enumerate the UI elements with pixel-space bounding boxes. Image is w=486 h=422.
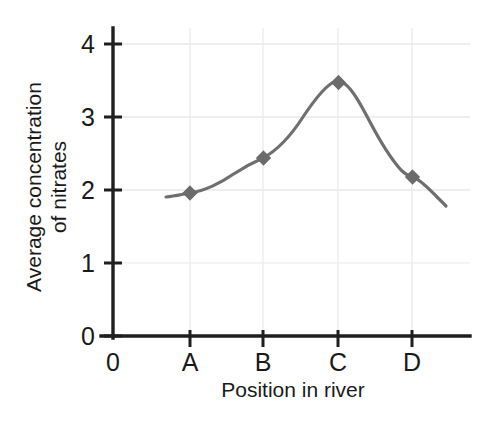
x-axis-tick-labels: 0 A B C D <box>106 348 421 376</box>
x-tick-label-a: A <box>182 348 199 376</box>
data-point-a <box>184 187 197 200</box>
chart-container: 4 3 2 1 0 0 A B C D Position in river Av… <box>0 0 486 422</box>
y-tick-label-4: 4 <box>81 30 95 58</box>
x-axis-ticks <box>190 330 412 347</box>
x-tick-label-c: C <box>329 348 347 376</box>
y-tick-label-0: 0 <box>81 322 95 350</box>
x-tick-label-d: D <box>403 348 421 376</box>
y-axis-title-line-1: Average concentration <box>22 82 45 292</box>
y-tick-label-1: 1 <box>81 249 95 277</box>
data-markers <box>184 76 420 200</box>
y-axis-title: Average concentration of nitrates <box>22 82 70 292</box>
y-tick-label-2: 2 <box>81 176 95 204</box>
data-point-c <box>332 76 345 89</box>
line-chart: 4 3 2 1 0 0 A B C D Position in river Av… <box>0 0 486 422</box>
y-tick-label-3: 3 <box>81 103 95 131</box>
y-axis-title-line-2: of nitrates <box>47 141 70 233</box>
y-axis-tick-labels: 4 3 2 1 0 <box>81 30 95 350</box>
grid-lines <box>113 28 470 336</box>
x-tick-label-b: B <box>255 348 272 376</box>
x-axis-title: Position in river <box>221 378 365 401</box>
axes <box>101 28 470 338</box>
data-line-curve <box>166 82 446 206</box>
data-series-nitrates <box>166 76 446 206</box>
data-point-d <box>406 171 419 184</box>
x-tick-label-origin: 0 <box>106 348 120 376</box>
